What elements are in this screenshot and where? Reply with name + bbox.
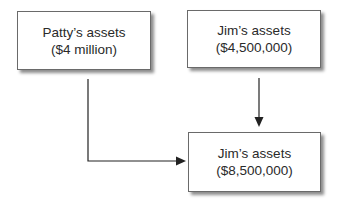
node-title: Jim’s assets <box>217 22 290 39</box>
arrowhead-down-icon <box>255 117 264 127</box>
node-value: ($4,500,000) <box>216 39 293 56</box>
node-value: ($8,500,000) <box>216 162 293 179</box>
node-jim-assets-before: Jim’s assets ($4,500,000) <box>187 10 321 68</box>
node-title: Jim’s assets <box>218 145 291 162</box>
arrowhead-right-icon <box>176 157 186 166</box>
node-title: Patty’s assets <box>42 24 125 41</box>
node-jim-assets-after: Jim’s assets ($8,500,000) <box>188 132 321 192</box>
node-patty-assets: Patty’s assets ($4 million) <box>17 11 151 70</box>
arrow-patty-to-jim-after <box>88 79 180 161</box>
node-value: ($4 million) <box>51 41 117 58</box>
